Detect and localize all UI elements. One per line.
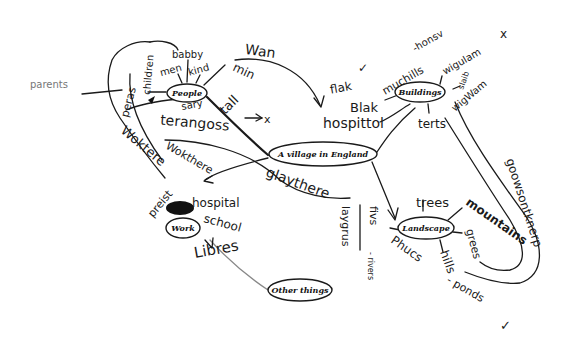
node-landscape: Landscape (398, 217, 454, 239)
word-fivs: fivs (367, 206, 380, 225)
word-laygrus: laygrus (339, 206, 352, 247)
word-wan: Wan (244, 41, 276, 61)
word-hills: hills (437, 248, 458, 275)
svg-text:Other things: Other things (271, 285, 329, 295)
svg-text:Buildings: Buildings (397, 87, 442, 97)
word-terangoss: terangoss (160, 112, 230, 134)
word-x2: x (500, 27, 507, 41)
word-babby: babby (172, 49, 203, 60)
word-blak: Blak (350, 100, 378, 115)
word-terts: terts (418, 117, 446, 131)
word-sary: sary (180, 97, 203, 112)
word-school: school (202, 211, 243, 234)
word-glaythere: glaythere (264, 164, 332, 202)
word-parents: parents (30, 79, 68, 90)
word-min: min (231, 60, 257, 82)
node-other-things: Other things (268, 279, 332, 301)
mind-map-canvas: A village in England People Buildings La… (0, 0, 588, 350)
word-honsv: -honsv (411, 27, 446, 53)
svg-text:Work: Work (171, 223, 195, 233)
scribble-smudge (166, 201, 194, 215)
word-trees: trees (416, 195, 449, 210)
word-grees: grees (463, 227, 484, 260)
word-tick1: ✓ (358, 61, 368, 75)
word-rivers: - rivers (366, 252, 375, 280)
node-central: A village in England (269, 142, 377, 166)
svg-text:Landscape: Landscape (401, 223, 449, 233)
node-work: Work (166, 218, 200, 238)
word-kind: kind (187, 61, 210, 77)
word-tall: tall (217, 92, 242, 117)
word-children: children (141, 54, 155, 95)
word-tick2: ✓ (500, 318, 511, 333)
word-wigwam: wigWam (449, 78, 489, 114)
word-hospital: hospital (192, 196, 240, 210)
word-flak: flak (329, 79, 353, 97)
word-hospittol: hospittol (323, 115, 384, 131)
svg-text:People: People (171, 88, 202, 98)
svg-text:A village in England: A village in England (277, 149, 369, 159)
mind-map-drawing: A village in England People Buildings La… (0, 0, 588, 350)
word-libres: Libres (193, 236, 241, 262)
word-x1: x (264, 113, 271, 126)
